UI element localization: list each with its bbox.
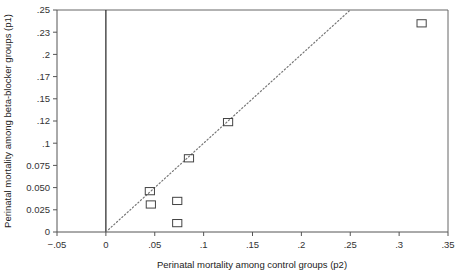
x-tick-label: .3: [395, 239, 403, 250]
x-axis-tick-labels: −.050.05.1.15.2.25.3.35: [48, 239, 455, 250]
y-tick-label: 0.050: [26, 182, 50, 193]
y-tick-label: .1: [42, 138, 50, 149]
y-tick-label: 0: [45, 226, 50, 237]
y-tick-label: .25: [37, 4, 50, 15]
x-tick-label: .15: [246, 239, 259, 250]
x-tick-label: .2: [297, 239, 305, 250]
x-axis-ticks: [57, 232, 448, 236]
equality-reference-line: [106, 10, 350, 232]
y-axis-ticks: [53, 10, 57, 232]
x-tick-label: .35: [441, 239, 454, 250]
chart-figure: 00.0250.0500.075.1.12.15.17.2.23.25 −.05…: [0, 0, 463, 277]
data-point-marker: [173, 197, 182, 204]
x-tick-label: −.05: [48, 239, 67, 250]
data-point-marker: [417, 20, 426, 27]
data-point-marker: [146, 201, 155, 208]
data-point-group: [145, 20, 426, 227]
y-tick-label: .15: [37, 93, 50, 104]
plot-frame: [57, 10, 448, 232]
y-tick-label: 0.025: [26, 204, 50, 215]
x-tick-label: 0: [103, 239, 108, 250]
x-axis-title: Perinatal mortality among control groups…: [157, 259, 347, 270]
data-point-marker: [223, 119, 232, 126]
scatter-plot-canvas: 00.0250.0500.075.1.12.15.17.2.23.25 −.05…: [0, 0, 463, 277]
y-tick-label: .23: [37, 27, 50, 38]
x-tick-label: .25: [344, 239, 357, 250]
y-tick-label: .2: [42, 49, 50, 60]
y-tick-label: .12: [37, 115, 50, 126]
x-tick-label: .05: [148, 239, 161, 250]
data-point-marker: [145, 188, 154, 195]
y-tick-label: 0.075: [26, 160, 50, 171]
data-point-marker: [173, 220, 182, 227]
y-axis-tick-labels: 00.0250.0500.075.1.12.15.17.2.23.25: [26, 4, 50, 237]
y-tick-label: .17: [37, 71, 50, 82]
y-axis-title: Perinatal mortality among beta-blocker g…: [2, 14, 13, 228]
x-tick-label: .1: [200, 239, 208, 250]
